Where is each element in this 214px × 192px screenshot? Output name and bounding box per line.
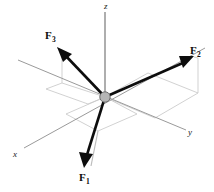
vector-label-f3: F3	[45, 30, 55, 41]
vector-f1	[79, 97, 105, 168]
vector-label-f3-symbol: F	[45, 29, 52, 41]
axis-label-z: z	[104, 2, 108, 11]
vector-f1-shaft	[86, 97, 105, 158]
construction-parallelogram-lower	[66, 97, 137, 131]
origin-point-marker	[100, 92, 110, 102]
vector-f2-arrowhead	[179, 56, 194, 68]
vector-label-f2-symbol: F	[190, 44, 197, 56]
vector-label-f1-subscript: 1	[86, 177, 90, 186]
vector-label-f1-symbol: F	[79, 171, 86, 183]
force-vector-diagram: z x y F1 F2 F3	[0, 0, 214, 192]
vector-f2	[105, 56, 194, 97]
vector-label-f2: F2	[190, 45, 200, 56]
vector-f2-shaft	[105, 62, 185, 97]
vector-label-f2-subscript: 2	[197, 50, 201, 59]
axis-label-y: y	[188, 128, 192, 137]
vector-label-f3-subscript: 3	[52, 35, 56, 44]
axis-x	[24, 48, 205, 148]
vector-label-f1: F1	[79, 172, 89, 183]
axis-label-x: x	[13, 150, 17, 159]
diagram-canvas	[0, 0, 214, 192]
